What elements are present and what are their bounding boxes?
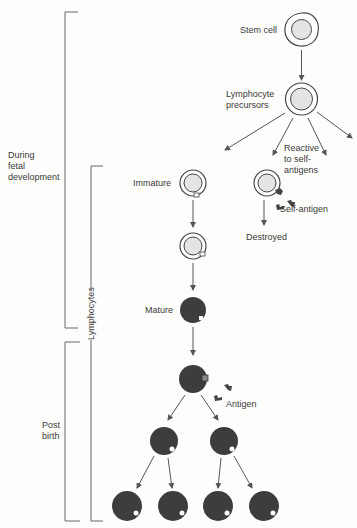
self-antigen-label: Self-antigen bbox=[280, 204, 328, 215]
mature-label: Mature bbox=[145, 305, 173, 316]
stem-cell-label: Stem cell bbox=[240, 25, 277, 36]
lymphocyte-precursors-label: Lymphocyte precursors bbox=[226, 89, 274, 111]
stem-cell-icon bbox=[285, 13, 318, 46]
lymphocytes-bracket bbox=[91, 166, 103, 521]
lymphocytes-bracket-label: Lymphocytes bbox=[86, 287, 96, 340]
activated-cell-icon bbox=[179, 365, 208, 393]
fetal-bracket-label: During fetal development bbox=[8, 150, 60, 183]
immature-label: Immature bbox=[133, 178, 171, 189]
self-reactive-cell-icon bbox=[254, 170, 283, 196]
mature-cell-icon bbox=[180, 297, 206, 323]
post-birth-bracket-label: Post birth bbox=[42, 420, 60, 442]
fetal-bracket bbox=[65, 12, 78, 328]
destroyed-label: Destroyed bbox=[246, 232, 287, 243]
immature-cell-2-icon bbox=[180, 233, 206, 259]
immature-cell-icon bbox=[180, 170, 206, 197]
lymphocyte-development-diagram bbox=[0, 0, 357, 528]
antigen-label: Antigen bbox=[226, 399, 257, 410]
post-birth-bracket bbox=[65, 342, 80, 521]
clone-cell-icon bbox=[112, 491, 279, 521]
clone-cell-icon bbox=[150, 427, 238, 455]
reactive-label: Reactive to self- antigens bbox=[284, 143, 319, 176]
precursor-cell-icon bbox=[286, 83, 318, 115]
